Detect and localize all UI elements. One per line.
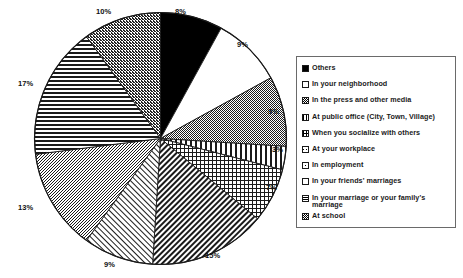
legend-item-label: In your friends' marriages [312, 177, 401, 185]
legend-item-label: Others [312, 64, 335, 72]
legend-swatch-dense-stipple [302, 97, 309, 104]
pie-percent-label: 9% [104, 261, 115, 269]
legend-item: In your neighborhood [302, 80, 451, 88]
legend-item-label: In the press and other media [312, 96, 411, 104]
pie-chart-svg: Others 8%In your neighborhood 9%In the p… [0, 0, 292, 278]
legend-item-label: At school [312, 212, 345, 220]
pie-percent-label: 8% [175, 8, 186, 16]
legend-item: At your workplace [302, 145, 451, 153]
pie-percent-label: 9% [237, 41, 248, 49]
pie-percent-label: 17% [18, 80, 33, 88]
legend-item-label: At your workplace [312, 145, 375, 153]
pie-slices-group: Others 8%In your neighborhood 9%In the p… [34, 13, 286, 265]
pie-chart-figure: Others 8%In your neighborhood 9%In the p… [0, 0, 463, 278]
legend-swatch-light-diagonal [302, 162, 309, 169]
legend-swatch-crosshatch-grid [302, 130, 309, 137]
legend-item: In your marriage or your family's marria… [302, 194, 451, 210]
legend-item: In employment [302, 161, 451, 169]
legend-swatch-white [302, 81, 309, 88]
legend-item: When you socialize with others [302, 129, 451, 137]
legend-item: At school [302, 212, 451, 220]
pie-percent-label: 15% [205, 252, 220, 260]
legend-swatch-vertical-bars [302, 114, 309, 121]
pie-percent-label: 7% [266, 184, 277, 192]
legend-swatch-diagonal-hatch [302, 146, 309, 153]
pie-percent-label: 3% [272, 146, 283, 154]
legend-item-label: In employment [312, 161, 363, 169]
legend-item: In your friends' marriages [302, 177, 451, 185]
legend-item: In the press and other media [302, 96, 451, 104]
legend-item-label: When you socialize with others [312, 129, 420, 137]
chart-legend: OthersIn your neighborhoodIn the press a… [296, 56, 456, 228]
legend-swatch-horizontal-lines [302, 195, 309, 202]
legend-item: At public office (City, Town, Village) [302, 113, 451, 121]
pie-chart-plot-area: Others 8%In your neighborhood 9%In the p… [0, 0, 292, 278]
legend-swatch-dark-stipple [302, 213, 309, 220]
legend-swatch-medium-stipple [302, 178, 309, 185]
legend-item: Others [302, 64, 451, 72]
legend-item-label: In your marriage or your family's marria… [312, 194, 451, 210]
pie-percent-label: 9% [268, 108, 279, 116]
legend-swatch-solid-black [302, 65, 309, 72]
pie-percent-label: 13% [18, 204, 33, 212]
legend-item-label: At public office (City, Town, Village) [312, 113, 435, 121]
legend-item-label: In your neighborhood [312, 80, 387, 88]
pie-percent-label: 10% [96, 8, 111, 16]
